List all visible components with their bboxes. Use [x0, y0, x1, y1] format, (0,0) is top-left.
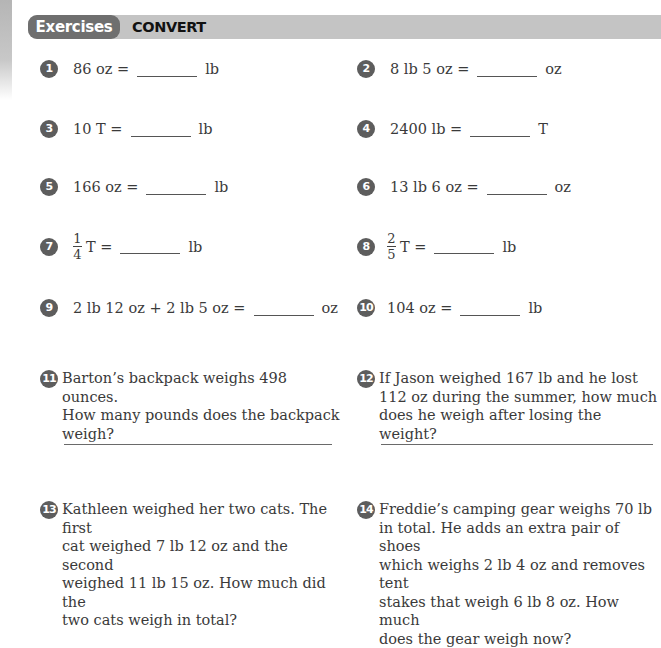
problem-2: 2 8 lb 5 oz = oz: [357, 60, 562, 78]
answer-blank[interactable]: [254, 301, 314, 316]
problem-expression: 13 lb 6 oz =: [390, 179, 479, 195]
exercises-label: Exercises: [28, 15, 120, 39]
text-line: does he weigh after losing the weight?: [379, 406, 661, 443]
word-problem-text: If Jason weighed 167 lb and he lost 112 …: [379, 369, 661, 443]
number-badge: 13: [40, 501, 58, 519]
text-line: Barton’s backpack weighs 498 ounces.: [62, 369, 340, 406]
problem-unit: lb: [528, 300, 542, 316]
text-line: Freddie’s camping gear weighs 70 lb: [379, 500, 661, 519]
number-badge: 14: [357, 501, 375, 519]
problem-1: 1 86 oz = lb: [40, 60, 219, 78]
fraction-numerator: 1: [73, 232, 81, 245]
text-line: does the gear weigh now?: [379, 630, 661, 648]
answer-blank[interactable]: [146, 180, 206, 195]
answer-line-12[interactable]: [381, 444, 653, 445]
problem-unit: T: [538, 121, 548, 137]
fraction: 2 5: [387, 232, 396, 261]
problem-10: 10 104 oz = lb: [357, 299, 542, 317]
word-problem-12: 12 If Jason weighed 167 lb and he lost 1…: [357, 369, 661, 443]
text-line: which weighs 2 lb 4 oz and removes tent: [379, 556, 661, 593]
number-badge: 3: [40, 120, 58, 138]
problem-4: 4 2400 lb = T: [357, 120, 548, 138]
answer-line-11[interactable]: [64, 444, 332, 445]
number-badge: 9: [40, 299, 58, 317]
fraction-denominator: 5: [387, 248, 395, 261]
answer-blank[interactable]: [470, 122, 530, 137]
fraction-denominator: 4: [73, 248, 81, 261]
word-problem-13: 13 Kathleen weighed her two cats. The fi…: [40, 500, 340, 630]
problem-expression: 104 oz =: [387, 300, 452, 316]
section-header-bar: [28, 15, 661, 39]
word-problem-14: 14 Freddie’s camping gear weighs 70 lb i…: [357, 500, 661, 648]
word-problem-text: Kathleen weighed her two cats. The first…: [62, 500, 340, 630]
problem-expression: T =: [400, 239, 426, 255]
number-badge: 2: [357, 60, 375, 78]
problem-5: 5 166 oz = lb: [40, 178, 228, 196]
problem-expression: 2400 lb =: [390, 121, 462, 137]
problem-unit: lb: [502, 239, 516, 255]
problem-expression: 86 oz =: [73, 61, 129, 77]
word-problem-text: Barton’s backpack weighs 498 ounces. How…: [62, 369, 340, 443]
text-line: If Jason weighed 167 lb and he lost: [379, 369, 661, 388]
problem-unit: oz: [555, 179, 571, 195]
fraction: 1 4: [73, 232, 82, 261]
text-line: Kathleen weighed her two cats. The first: [62, 500, 340, 537]
problem-unit: lb: [205, 61, 219, 77]
problem-unit: lb: [214, 179, 228, 195]
problem-7: 7 1 4 T = lb: [40, 232, 202, 261]
answer-blank[interactable]: [477, 62, 537, 77]
number-badge: 8: [357, 238, 375, 256]
word-problem-11: 11 Barton’s backpack weighs 498 ounces. …: [40, 369, 340, 443]
text-line: in total. He adds an extra pair of shoes: [379, 519, 661, 556]
answer-blank[interactable]: [434, 239, 494, 254]
problem-6: 6 13 lb 6 oz = oz: [357, 178, 571, 196]
answer-blank[interactable]: [120, 239, 180, 254]
text-line: weighed 11 lb 15 oz. How much did the: [62, 574, 340, 611]
page-edge-shading: [0, 0, 12, 100]
problem-expression: 10 T =: [73, 121, 123, 137]
problem-unit: oz: [545, 61, 561, 77]
problem-unit: oz: [322, 300, 338, 316]
problem-8: 8 2 5 T = lb: [357, 232, 516, 261]
text-line: stakes that weigh 6 lb 8 oz. How much: [379, 593, 661, 630]
text-line: How many pounds does the backpack: [62, 406, 340, 425]
number-badge: 7: [40, 238, 58, 256]
word-problem-text: Freddie’s camping gear weighs 70 lb in t…: [379, 500, 661, 648]
text-line: cat weighed 7 lb 12 oz and the second: [62, 537, 340, 574]
problem-3: 3 10 T = lb: [40, 120, 212, 138]
text-line: two cats weigh in total?: [62, 611, 340, 630]
number-badge: 10: [357, 299, 375, 317]
section-title: CONVERT: [132, 15, 206, 39]
answer-blank[interactable]: [487, 180, 547, 195]
problem-expression: T =: [86, 239, 112, 255]
number-badge: 6: [357, 178, 375, 196]
answer-blank[interactable]: [137, 62, 197, 77]
problem-expression: 2 lb 12 oz + 2 lb 5 oz =: [73, 300, 246, 316]
number-badge: 11: [40, 370, 58, 388]
fraction-numerator: 2: [387, 232, 395, 245]
text-line: 112 oz during the summer, how much: [379, 388, 661, 407]
problem-unit: lb: [199, 121, 213, 137]
answer-blank[interactable]: [131, 122, 191, 137]
number-badge: 1: [40, 60, 58, 78]
number-badge: 5: [40, 178, 58, 196]
number-badge: 12: [357, 370, 375, 388]
problem-unit: lb: [188, 239, 202, 255]
text-line: weigh?: [62, 425, 340, 444]
number-badge: 4: [357, 120, 375, 138]
answer-blank[interactable]: [460, 301, 520, 316]
problem-expression: 8 lb 5 oz =: [390, 61, 469, 77]
problem-9: 9 2 lb 12 oz + 2 lb 5 oz = oz: [40, 299, 338, 317]
problem-expression: 166 oz =: [73, 179, 138, 195]
